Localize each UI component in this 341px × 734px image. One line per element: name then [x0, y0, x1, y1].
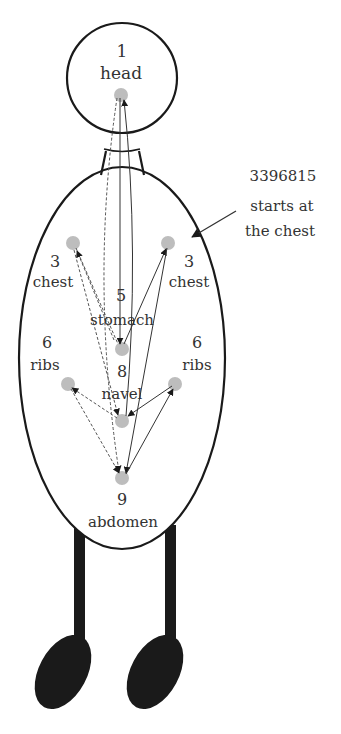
- label-stomach-name: stomach: [90, 311, 154, 329]
- label-chest-right-name: chest: [169, 273, 210, 291]
- left-leg: [74, 525, 85, 645]
- label-chest-left-number: 3: [50, 252, 60, 271]
- annotation-line-2: starts at: [250, 197, 313, 215]
- right-foot: [115, 625, 195, 718]
- annotation-line-1: 3396815: [250, 167, 317, 185]
- annotation-line-3: the chest: [245, 222, 315, 240]
- legs: [23, 525, 195, 719]
- label-ribs-right-name: ribs: [182, 356, 211, 374]
- label-ribs-left-name: ribs: [30, 356, 59, 374]
- label-ribs-left-number: 6: [42, 333, 52, 352]
- left-foot: [23, 625, 103, 718]
- label-chest-left-name: chest: [33, 273, 74, 291]
- body-diagram: 1 head 3 chest 3 chest 5 stomach 6 ribs …: [0, 0, 341, 734]
- point-stomach: [115, 342, 129, 356]
- point-ribs-right: [168, 377, 182, 391]
- point-head: [114, 88, 128, 102]
- label-chest-right-number: 3: [184, 252, 194, 271]
- label-head-number: 1: [117, 41, 128, 61]
- label-stomach-number: 5: [116, 286, 126, 305]
- label-head-name: head: [100, 63, 142, 83]
- label-abdomen-number: 9: [117, 490, 127, 509]
- point-navel: [115, 414, 129, 428]
- point-chest-right: [161, 236, 175, 250]
- annotation-arrow: [192, 211, 236, 237]
- point-chest-left: [66, 236, 80, 250]
- label-ribs-right-number: 6: [192, 333, 202, 352]
- label-navel-name: navel: [102, 385, 143, 403]
- annotation: 3396815 starts at the chest: [245, 167, 316, 240]
- right-leg: [165, 525, 176, 645]
- label-navel-number: 8: [117, 362, 127, 381]
- label-abdomen-name: abdomen: [88, 513, 158, 531]
